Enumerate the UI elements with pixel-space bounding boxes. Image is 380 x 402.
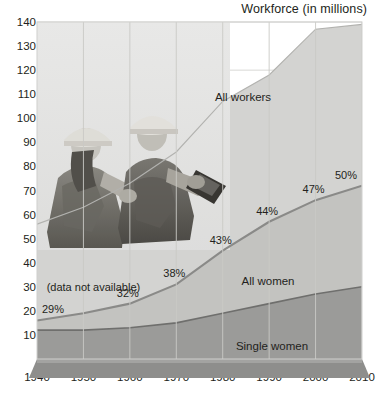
annotation-percent-1970: 38% bbox=[163, 267, 185, 279]
series-label-all-women: All women bbox=[241, 275, 294, 287]
workforce-area-chart: Workforce (in millions) 1020304050607080… bbox=[0, 0, 380, 402]
chart-base-highlight bbox=[37, 359, 362, 363]
series-label-single-women: Single women bbox=[236, 340, 308, 352]
series-label-all-workers: All workers bbox=[215, 91, 271, 103]
annotation-percent-1990: 44% bbox=[256, 205, 278, 217]
annotation-percent-1960: 32% bbox=[117, 287, 139, 299]
annotation-percent-1940: 29% bbox=[42, 303, 64, 315]
annotation-percent-2000: 47% bbox=[303, 183, 325, 195]
chart-plot-area bbox=[0, 0, 380, 402]
annotation-percent-1980: 43% bbox=[210, 234, 232, 246]
annotation-percent-2010: 50% bbox=[335, 169, 357, 181]
